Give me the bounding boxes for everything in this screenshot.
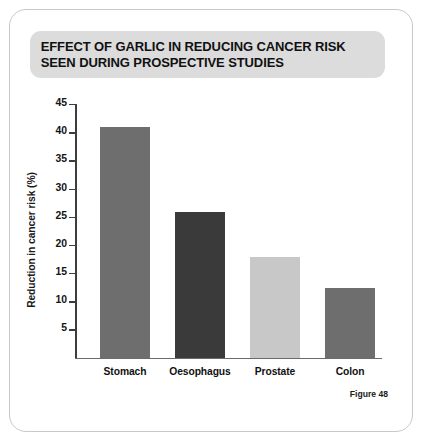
figure-container: EFFECT OF GARLIC IN REDUCING CANCER RISK… (0, 0, 422, 441)
chart-title: EFFECT OF GARLIC IN REDUCING CANCER RISK… (30, 39, 374, 70)
title-banner: EFFECT OF GARLIC IN REDUCING CANCER RISK… (30, 31, 385, 78)
